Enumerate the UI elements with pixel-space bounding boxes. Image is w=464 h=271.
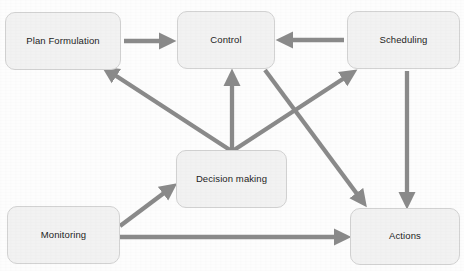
node-control[interactable]: Control (177, 11, 275, 69)
diagram-canvas: Plan Formulation Control Scheduling Deci… (0, 0, 464, 271)
node-actions[interactable]: Actions (350, 208, 460, 265)
edge-decision-making-to-plan-formulation (107, 70, 230, 150)
node-plan-formulation[interactable]: Plan Formulation (5, 12, 121, 70)
node-scheduling[interactable]: Scheduling (347, 11, 460, 69)
node-label-monitoring: Monitoring (41, 230, 86, 241)
node-label-scheduling: Scheduling (379, 35, 427, 46)
node-label-actions: Actions (389, 231, 421, 242)
node-monitoring[interactable]: Monitoring (7, 206, 120, 264)
edge-decision-making-to-scheduling (234, 73, 352, 150)
node-decision-making[interactable]: Decision making (176, 150, 287, 208)
node-label-plan-formulation: Plan Formulation (26, 36, 99, 47)
edge-monitoring-to-decision-making (120, 187, 172, 226)
node-label-decision-making: Decision making (196, 174, 267, 185)
node-label-control: Control (210, 35, 241, 46)
